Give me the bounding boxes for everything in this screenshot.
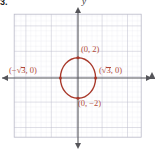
label-vertex-left: (−√3, 0) bbox=[9, 66, 37, 75]
coordinate-plot bbox=[0, 0, 155, 152]
label-vertex-left-prefix: (− bbox=[9, 65, 17, 75]
point-vertex-left bbox=[59, 77, 62, 80]
y-axis-arrow-up bbox=[75, 7, 81, 13]
radical-bar-left bbox=[21, 67, 26, 68]
label-vertex-right: (√3, 0) bbox=[99, 66, 122, 75]
x-axis-arrow-right bbox=[146, 75, 152, 81]
label-covertex-bottom: (0, −2) bbox=[78, 99, 101, 108]
label-vertex-left-suffix: , 0) bbox=[26, 65, 37, 75]
radical-bar-right bbox=[106, 67, 111, 68]
point-vertex-right bbox=[94, 77, 97, 80]
label-vertex-right-suffix: , 0) bbox=[111, 65, 122, 75]
y-axis-arrow-down bbox=[75, 143, 81, 149]
point-covertex-top bbox=[77, 56, 80, 59]
ellipse-figure: 3. y bbox=[0, 0, 155, 152]
x-axis-arrow-left bbox=[2, 75, 8, 81]
label-covertex-top: (0, 2) bbox=[81, 45, 99, 54]
